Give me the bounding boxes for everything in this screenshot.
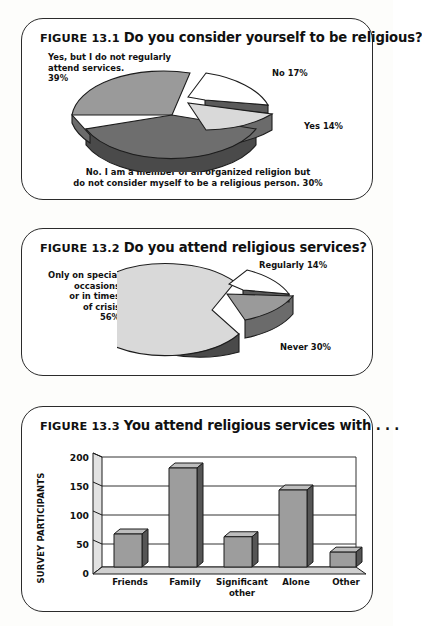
figure-question-13-1: Do you consider yourself to be religious…	[124, 30, 422, 45]
figure-question-13-3: You attend religious services with . . .	[124, 418, 399, 433]
pie-slice-regularly	[229, 270, 289, 294]
y-tick-200: 200	[70, 452, 89, 463]
bar-alone	[279, 485, 313, 567]
figure-card-13-3: FIGURE 13.3You attend religious services…	[21, 406, 373, 612]
cat-label-alone: Alone	[282, 577, 310, 587]
cat-label-friends: Friends	[112, 577, 148, 587]
pie-slice-yes-not-regular	[72, 71, 190, 115]
bar-chart-y-axis	[93, 453, 102, 574]
pie-label-special-occasions: Only on special occasions or in times of…	[26, 270, 120, 323]
bar-other	[330, 547, 362, 567]
pie-chart-13-1	[60, 67, 310, 172]
figure-card-13-2: FIGURE 13.2Do you attend religious servi…	[21, 228, 373, 376]
figure-number-13-1: FIGURE 13.1	[40, 32, 120, 45]
figure-question-13-2: Do you attend religious services?	[124, 240, 367, 255]
figure-title-13-3: FIGURE 13.3You attend religious services…	[40, 418, 399, 433]
y-tick-0: 0	[83, 568, 89, 579]
bar-significant-other	[224, 532, 258, 567]
cat-label-other: Other	[332, 577, 360, 587]
bar-friends	[114, 529, 148, 567]
pie-slice-special-occasions	[117, 264, 239, 356]
bar-family	[169, 463, 203, 567]
figure-number-13-2: FIGURE 13.2	[40, 242, 120, 255]
figure-number-13-3: FIGURE 13.3	[40, 420, 120, 433]
cat-label-significant-other: Significant	[216, 577, 268, 587]
cat-label-family: Family	[169, 577, 201, 587]
bar-chart-y-axis-title: SURVEY PARTICIPANTS	[36, 473, 46, 584]
bar-chart-floor	[93, 567, 366, 574]
figure-title-13-2: FIGURE 13.2Do you attend religious servi…	[40, 240, 367, 255]
cat-label-significant-other-2: other	[229, 588, 256, 598]
bar-chart-13-3: SURVEY PARTICIPANTS 200 150 100 50 0	[30, 443, 366, 603]
y-tick-50: 50	[76, 539, 89, 550]
figure-title-13-1: FIGURE 13.1Do you consider yourself to b…	[40, 30, 422, 45]
pie-slice-no-17	[188, 73, 268, 105]
y-tick-150: 150	[70, 481, 89, 492]
y-tick-100: 100	[70, 510, 89, 521]
figure-card-13-1: FIGURE 13.1Do you consider yourself to b…	[21, 18, 373, 200]
pie-chart-13-2	[117, 262, 327, 370]
